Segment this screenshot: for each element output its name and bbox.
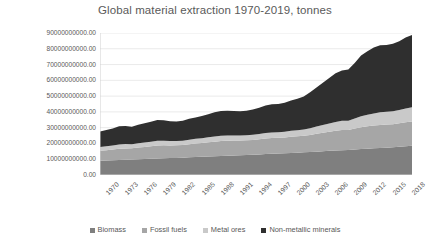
y-axis-labels: 0.0010000000000.0020000000000.0030000000…: [0, 33, 96, 175]
x-axis-tick-label: 1994: [258, 181, 274, 197]
x-axis-tick-label: 2009: [353, 181, 369, 197]
chart-title: Global material extraction 1970-2019, to…: [0, 4, 430, 16]
legend-swatch-icon: [90, 228, 95, 233]
legend-label: Metal ores: [211, 226, 246, 233]
legend-item[interactable]: Fossil fuels: [142, 226, 187, 233]
y-axis-tick-label: 40000000000.00: [0, 109, 96, 116]
x-axis-tick-label: 2015: [392, 181, 408, 197]
y-axis-tick-label: 80000000000.00: [0, 45, 96, 52]
x-axis-tick-label: 2018: [411, 181, 427, 197]
y-axis-tick-label: 10000000000.00: [0, 156, 96, 163]
x-axis-tick-label: 2012: [373, 181, 389, 197]
y-axis-tick-label: 30000000000.00: [0, 124, 96, 131]
x-axis-tick-label: 1973: [124, 181, 140, 197]
chart-legend: BiomassFossil fuelsMetal oresNon-metalli…: [0, 222, 430, 238]
legend-label: Biomass: [98, 226, 126, 233]
y-axis-tick-label: 90000000000.00: [0, 30, 96, 37]
x-axis-tick-label: 1976: [143, 181, 159, 197]
legend-swatch-icon: [142, 228, 147, 233]
x-axis-tick-label: 1997: [277, 181, 293, 197]
legend-item[interactable]: Non-metallic minerals: [261, 226, 340, 233]
y-axis-tick-label: 20000000000.00: [0, 140, 96, 147]
legend-swatch-icon: [261, 228, 266, 233]
y-axis-tick-label: 0.00: [0, 172, 96, 179]
legend-label: Non-metallic minerals: [269, 226, 340, 233]
y-axis-tick-label: 50000000000.00: [0, 93, 96, 100]
x-axis-labels: 1970197319761979198219851988199119941997…: [100, 176, 412, 216]
x-axis-tick-label: 1970: [105, 181, 121, 197]
legend-item[interactable]: Metal ores: [203, 226, 246, 233]
x-axis-tick-label: 1979: [162, 181, 178, 197]
legend-item[interactable]: Biomass: [90, 226, 126, 233]
x-axis-tick-label: 1985: [201, 181, 217, 197]
x-axis-tick-label: 1982: [181, 181, 197, 197]
legend-label: Fossil fuels: [150, 226, 187, 233]
chart-container: Global material extraction 1970-2019, to…: [0, 0, 430, 243]
x-axis-tick-label: 2006: [334, 181, 350, 197]
x-axis-tick-label: 1991: [239, 181, 255, 197]
y-axis-tick-label: 70000000000.00: [0, 61, 96, 68]
x-axis-tick-label: 2000: [296, 181, 312, 197]
legend-swatch-icon: [203, 228, 208, 233]
plot-area: [100, 33, 412, 175]
x-axis-tick-label: 2003: [315, 181, 331, 197]
stacked-area-plot: [100, 33, 412, 175]
y-axis-tick-label: 60000000000.00: [0, 77, 96, 84]
x-axis-tick-label: 1988: [220, 181, 236, 197]
